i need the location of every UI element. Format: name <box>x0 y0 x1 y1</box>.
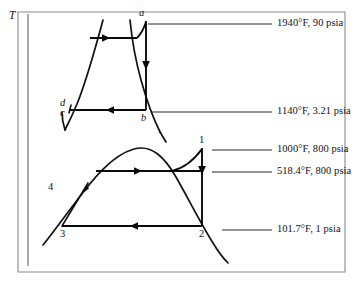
ts-diagram-figure: T a b c d 1 2 3 4 1940°F, 90 psia 1140°F… <box>0 0 355 287</box>
topping-dome-vapor-tail <box>160 132 166 142</box>
callout-1-text: 1000°F, 800 psia <box>277 144 349 155</box>
callout-b-text: 1140°F, 3.21 psia <box>277 106 351 117</box>
callout-sat-text: 518.4°F, 800 psia <box>277 166 351 177</box>
state-4-label: 4 <box>48 182 53 193</box>
temperature-axis-label: T <box>9 10 15 22</box>
state-1-label: 1 <box>199 135 204 146</box>
topping-heat-addition-arrow-icon <box>102 34 110 42</box>
state-2-label: 2 <box>199 229 204 240</box>
bottoming-heat-addition-arrow-icon <box>134 167 142 175</box>
bottoming-superheat-curve <box>172 149 202 171</box>
topping-dome-liquid-line <box>65 20 103 130</box>
callout-2-text: 101.7°F, 1 psia <box>277 224 341 235</box>
state-a-label: a <box>139 8 144 19</box>
topping-superheat-curve <box>137 22 146 38</box>
callout-a-text: 1940°F, 90 psia <box>277 18 343 29</box>
topping-expansion-arrow-icon <box>142 61 150 70</box>
topping-heat-rejection-arrow-icon <box>106 106 114 114</box>
topping-pump-line <box>69 105 71 113</box>
bottoming-vapor-dome <box>43 148 228 263</box>
state-d-label: d <box>60 98 65 109</box>
bottoming-pump-line <box>62 183 88 226</box>
state-b-label: b <box>141 113 146 124</box>
bottoming-condenser-arrow-icon <box>130 222 138 230</box>
state-3-label: 3 <box>60 229 65 240</box>
state-c-label: c <box>60 108 65 119</box>
